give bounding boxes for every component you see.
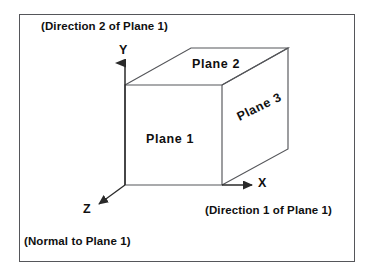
direction-1-annotation: (Direction 1 of Plane 1)	[205, 205, 332, 217]
figure-canvas: (Direction 2 of Plane 1) (Direction 1 of…	[0, 0, 371, 278]
y-axis-label: Y	[119, 44, 127, 57]
x-axis-label: X	[258, 177, 266, 190]
z-axis-label: Z	[83, 203, 91, 216]
normal-annotation: (Normal to Plane 1)	[24, 236, 131, 248]
plane-2-label: Plane 2	[192, 58, 240, 71]
plane-1-label: Plane 1	[146, 133, 194, 146]
direction-2-annotation: (Direction 2 of Plane 1)	[41, 21, 168, 33]
z-axis-line	[99, 185, 125, 204]
